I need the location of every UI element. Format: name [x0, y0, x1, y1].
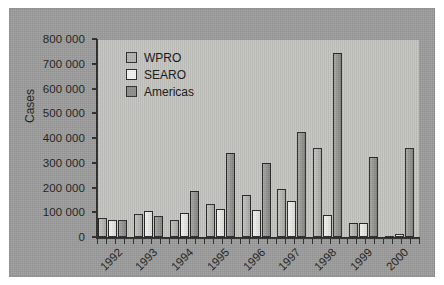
x-axis-tick [401, 239, 402, 244]
legend-item: SEARO [126, 67, 194, 82]
bar [108, 220, 117, 237]
x-axis-tick [240, 239, 241, 244]
x-axis-tick [419, 239, 420, 244]
bar [144, 211, 153, 237]
bar [134, 214, 143, 237]
x-axis-tick [124, 239, 125, 244]
x-axis-tick [106, 239, 107, 244]
x-axis-tick-label: 1996 [241, 246, 268, 273]
bar [287, 201, 296, 237]
x-axis-tick [365, 239, 366, 244]
bar [333, 53, 342, 237]
legend-swatch [126, 52, 137, 63]
x-axis-tick [231, 239, 232, 244]
bar [349, 223, 358, 237]
y-axis-tick [92, 236, 97, 238]
x-axis-tick [276, 239, 277, 244]
y-axis-tick-label: 0 [9, 231, 85, 243]
y-axis-tick [92, 112, 97, 114]
x-axis-tick [151, 239, 152, 244]
x-axis-tick [160, 239, 161, 244]
bar [118, 220, 127, 237]
x-axis-tick-label: 1997 [276, 246, 303, 273]
x-axis-tick [249, 239, 250, 244]
legend-label: SEARO [144, 68, 186, 82]
y-axis-tick-label: 300 000 [9, 157, 85, 169]
x-axis-tick-label: 1999 [348, 246, 375, 273]
bar [190, 191, 199, 237]
legend-item: WPRO [126, 50, 194, 65]
x-axis-tick [339, 239, 340, 244]
y-axis [96, 39, 98, 239]
legend-swatch [126, 69, 137, 80]
x-axis-tick [347, 239, 348, 244]
x-axis-tick-label: 1994 [169, 246, 196, 273]
x-axis-tick [204, 239, 205, 244]
x-axis-tick [303, 239, 304, 244]
x-axis-tick-label: 1998 [312, 246, 339, 273]
x-axis-tick-label: 1993 [133, 246, 160, 273]
x-axis-tick [213, 239, 214, 244]
y-axis-tick [92, 63, 97, 65]
y-axis-tick [92, 38, 97, 40]
legend-label: WPRO [144, 51, 181, 65]
x-axis-tick-label: 1995 [205, 246, 232, 273]
bar [297, 132, 306, 237]
x-axis-tick [186, 239, 187, 244]
y-axis-tick [92, 88, 97, 90]
bar [359, 223, 368, 237]
x-axis-tick [97, 239, 98, 244]
y-axis-tick-label: 400 000 [9, 132, 85, 144]
x-axis-tick [374, 239, 375, 244]
x-axis-tick [133, 239, 134, 244]
y-axis-tick [92, 211, 97, 213]
y-axis-tick-label: 700 000 [9, 58, 85, 70]
bar [262, 163, 271, 237]
x-axis-tick-label: 2000 [384, 246, 411, 273]
x-axis-tick [285, 239, 286, 244]
bar [154, 216, 163, 237]
bar [206, 204, 215, 237]
legend-swatch [126, 86, 137, 97]
y-axis-tick-label: 200 000 [9, 182, 85, 194]
bar [98, 218, 107, 237]
bar [242, 195, 251, 237]
figure: Cases 800 000700 000600 000500 000400 00… [0, 0, 444, 285]
x-axis-tick [312, 239, 313, 244]
x-axis-tick [330, 239, 331, 244]
y-axis-tick-label: 800 000 [9, 33, 85, 45]
x-axis-tick [195, 239, 196, 244]
x-axis-tick [321, 239, 322, 244]
legend: WPROSEAROAmericas [126, 50, 194, 101]
x-axis-tick [294, 239, 295, 244]
chart-panel: Cases 800 000700 000600 000500 000400 00… [9, 8, 435, 277]
x-axis-tick [392, 239, 393, 244]
x-axis-tick [178, 239, 179, 244]
bar [385, 236, 394, 238]
y-axis-tick-label: 500 000 [9, 107, 85, 119]
bar [395, 234, 404, 237]
x-axis-tick [267, 239, 268, 244]
bar [313, 148, 322, 237]
x-axis-tick [169, 239, 170, 244]
bar [170, 220, 179, 237]
legend-item: Americas [126, 84, 194, 99]
x-axis-tick [356, 239, 357, 244]
x-axis-tick [142, 239, 143, 244]
bar [277, 189, 286, 237]
bar [405, 148, 414, 237]
bar [180, 213, 189, 237]
x-axis-tick [410, 239, 411, 244]
bar [216, 209, 225, 237]
y-axis-tick [92, 187, 97, 189]
y-axis-tick [92, 162, 97, 164]
bar [226, 153, 235, 237]
x-axis-tick [258, 239, 259, 244]
y-axis-tick [92, 137, 97, 139]
bar [252, 210, 261, 237]
y-axis-tick-label: 100 000 [9, 206, 85, 218]
x-axis-tick [115, 239, 116, 244]
x-axis-tick [383, 239, 384, 244]
x-axis-tick [222, 239, 223, 244]
legend-label: Americas [144, 85, 194, 99]
